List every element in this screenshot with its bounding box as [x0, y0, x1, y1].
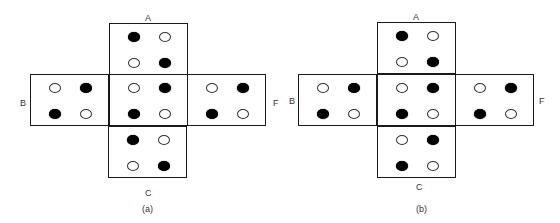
- label-f: F: [539, 96, 545, 106]
- filled-dot-icon: [427, 57, 439, 67]
- filled-dot-icon: [396, 31, 408, 41]
- hollow-dot-icon: [427, 31, 439, 41]
- filled-dot-icon: [427, 135, 439, 145]
- hollow-dot-icon: [317, 83, 329, 93]
- filled-dot-icon: [505, 83, 517, 93]
- hollow-dot-icon: [348, 109, 360, 119]
- label-a: A: [413, 12, 419, 22]
- filled-dot-icon: [348, 83, 360, 93]
- filled-dot-icon: [317, 109, 329, 119]
- hollow-dot-icon: [396, 135, 408, 145]
- label-b: B: [289, 96, 295, 106]
- hollow-dot-icon: [474, 83, 486, 93]
- cube-net-b: A B F C (b): [0, 0, 280, 223]
- face-center: [377, 74, 456, 126]
- face-b: [298, 74, 377, 126]
- filled-dot-icon: [396, 109, 408, 119]
- filled-dot-icon: [396, 161, 408, 171]
- filled-dot-icon: [474, 109, 486, 119]
- filled-dot-icon: [427, 83, 439, 93]
- face-c: [377, 126, 456, 178]
- caption-b: (b): [416, 204, 427, 214]
- hollow-dot-icon: [505, 109, 517, 119]
- hollow-dot-icon: [427, 109, 439, 119]
- label-c: C: [416, 182, 423, 192]
- hollow-dot-icon: [396, 57, 408, 67]
- face-f: [455, 74, 534, 126]
- face-a: [377, 22, 456, 74]
- hollow-dot-icon: [396, 83, 408, 93]
- hollow-dot-icon: [427, 161, 439, 171]
